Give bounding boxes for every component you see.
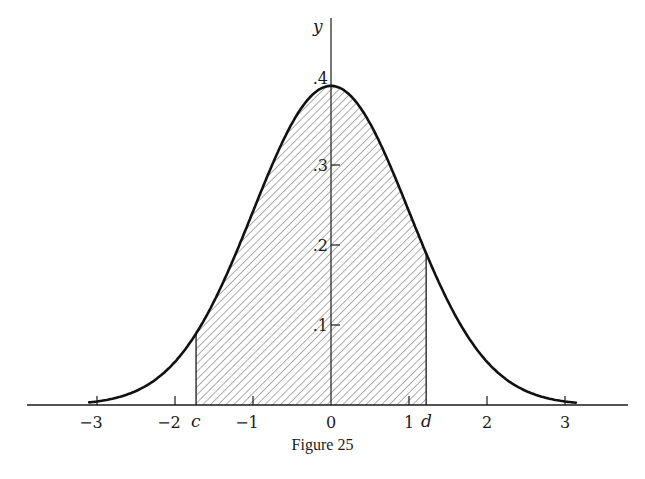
y-tick-label: .3 — [313, 156, 328, 175]
shaded-area — [196, 86, 426, 405]
y-tick-label: .4 — [313, 69, 328, 88]
x-tick-label: 1 — [404, 413, 414, 432]
y-tick-label: .2 — [313, 236, 328, 255]
x-tick-label: 3 — [560, 413, 570, 432]
y-tick-label: .1 — [313, 316, 328, 335]
c-label: c — [191, 411, 201, 431]
x-tick-label: 0 — [326, 413, 336, 432]
d-label: d — [421, 411, 432, 431]
figure-caption: Figure 25 — [0, 436, 645, 454]
x-tick-label: −1 — [235, 413, 259, 432]
y-axis-label: y — [312, 16, 323, 36]
x-tick-label: 2 — [482, 413, 492, 432]
x-tick-labels: −3−2−10123 — [79, 413, 570, 432]
x-tick-label: −2 — [157, 413, 181, 432]
normal-curve-figure: y −3−2−10123 .1.2.3.4 c d — [0, 0, 645, 479]
x-tick-label: −3 — [79, 413, 103, 432]
